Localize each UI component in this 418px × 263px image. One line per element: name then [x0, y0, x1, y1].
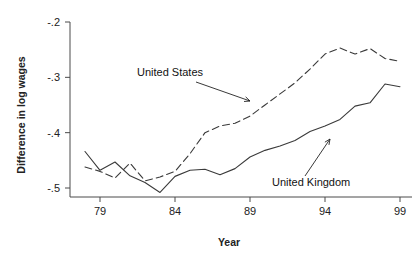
- x-axis: 7984899499: [70, 197, 412, 217]
- x-tick-label: 99: [394, 205, 406, 217]
- x-tick-label: 79: [94, 205, 106, 217]
- annotation-arrow-head: [325, 139, 330, 145]
- series-line-united-states: [85, 48, 400, 181]
- y-tick-label: -.5: [47, 182, 60, 194]
- annotation-arrow-line: [196, 82, 250, 101]
- annotation-arrow-line: [305, 139, 330, 176]
- annotation-label-united-kingdom: United Kingdom: [272, 176, 350, 188]
- x-tick-label: 89: [244, 205, 256, 217]
- y-axis-ticks: [65, 22, 70, 188]
- chart-container: -.2-.3-.4-.5 7984899499 Difference in lo…: [0, 0, 418, 263]
- annotation-group: United StatesUnited Kingdom: [137, 66, 350, 188]
- series-line-united-kingdom: [85, 84, 400, 192]
- y-axis-tick-labels: -.2-.3-.4-.5: [47, 16, 60, 194]
- data-series-group: [85, 48, 400, 192]
- x-axis-title: Year: [218, 236, 240, 248]
- x-axis-ticks: [100, 197, 400, 202]
- y-axis: -.2-.3-.4-.5: [47, 16, 70, 197]
- x-tick-label: 84: [169, 205, 181, 217]
- x-tick-label: 94: [319, 205, 331, 217]
- y-tick-label: -.4: [47, 127, 60, 139]
- annotation-label-united-states: United States: [137, 66, 204, 78]
- y-tick-label: -.3: [47, 71, 60, 83]
- y-axis-title: Difference in log wages: [15, 56, 27, 173]
- wage-difference-line-chart: -.2-.3-.4-.5 7984899499 Difference in lo…: [0, 0, 418, 263]
- x-axis-tick-labels: 7984899499: [94, 205, 406, 217]
- y-tick-label: -.2: [47, 16, 60, 28]
